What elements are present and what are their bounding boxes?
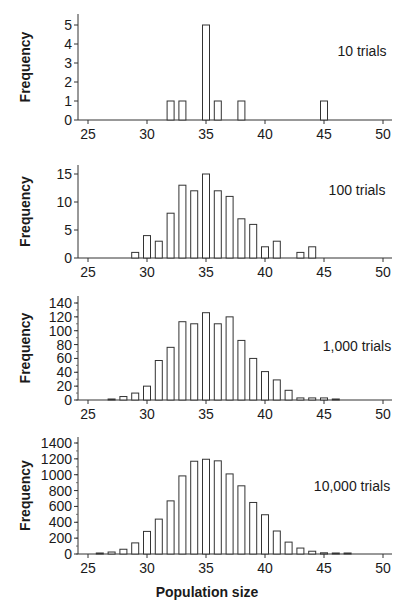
- chart-svg: Frequency01234525303540455010 trials: [0, 0, 414, 145]
- histogram-bar: [273, 531, 280, 554]
- histogram-10000-trials: Frequency0200400600800100012001400253035…: [0, 435, 414, 580]
- histogram-bar: [250, 224, 257, 258]
- histogram-bar: [144, 386, 151, 400]
- histogram-bar: [238, 340, 245, 400]
- x-tick-label: 40: [257, 264, 273, 280]
- histogram-bar: [167, 501, 174, 554]
- histogram-bar: [155, 241, 162, 258]
- y-tick-label: 100: [49, 323, 73, 339]
- y-tick-label: 0: [64, 392, 72, 408]
- histogram-bar: [297, 398, 304, 400]
- histogram-bar: [191, 324, 198, 400]
- x-tick-label: 45: [316, 560, 332, 576]
- x-tick-label: 30: [139, 264, 155, 280]
- histogram-bar: [132, 252, 139, 258]
- y-tick-label: 1200: [41, 451, 72, 467]
- histogram-bar: [179, 322, 186, 400]
- histogram-bar: [321, 553, 328, 554]
- y-axis-label: Frequency: [17, 460, 33, 531]
- histogram-bar: [191, 191, 198, 258]
- y-tick-label: 40: [56, 364, 72, 380]
- histogram-bar: [120, 397, 127, 400]
- histogram-bar: [273, 241, 280, 258]
- histogram-100-trials: Frequency051015253035404550100 trials: [0, 145, 414, 290]
- y-tick-label: 600: [49, 498, 73, 514]
- histogram-bar: [238, 101, 245, 120]
- histogram-bar: [250, 502, 257, 554]
- x-tick-label: 50: [375, 406, 391, 422]
- y-axis-label: Frequency: [17, 312, 33, 383]
- x-tick-label: 45: [316, 406, 332, 422]
- histogram-bar: [214, 324, 221, 400]
- histogram-bar: [226, 317, 233, 400]
- y-axis-label: Frequency: [17, 176, 33, 247]
- histogram-bar: [203, 459, 210, 554]
- histogram-bar: [262, 372, 269, 400]
- histogram-bar: [179, 476, 186, 554]
- y-axis-label: Frequency: [17, 31, 33, 102]
- y-tick-label: 0: [64, 546, 72, 562]
- x-tick-label: 50: [375, 560, 391, 576]
- y-tick-label: 1400: [41, 435, 72, 451]
- histogram-bar: [167, 213, 174, 258]
- x-tick-label: 25: [80, 126, 96, 142]
- x-tick-label: 35: [198, 126, 214, 142]
- x-tick-label: 25: [80, 560, 96, 576]
- x-tick-label: 25: [80, 264, 96, 280]
- histogram-bar: [309, 247, 316, 258]
- trials-annotation: 10,000 trials: [314, 478, 390, 494]
- histogram-bar: [344, 553, 351, 554]
- y-tick-label: 1: [64, 93, 72, 109]
- histogram-bar: [179, 185, 186, 258]
- histogram-bar: [120, 549, 127, 554]
- y-tick-label: 140: [49, 295, 73, 311]
- y-tick-label: 1000: [41, 467, 72, 483]
- chart-svg: Frequency051015253035404550100 trials: [0, 145, 414, 290]
- histogram-bar: [96, 553, 103, 554]
- y-tick-label: 5: [64, 222, 72, 238]
- histogram-bar: [108, 552, 115, 554]
- histogram-bar: [191, 461, 198, 554]
- histogram-bar: [250, 358, 257, 400]
- histogram-bar: [132, 393, 139, 400]
- x-tick-label: 40: [257, 126, 273, 142]
- y-tick-label: 20: [56, 378, 72, 394]
- x-tick-label: 45: [316, 264, 332, 280]
- histogram-bar: [321, 101, 328, 120]
- y-tick-label: 0: [64, 112, 72, 128]
- histogram-bar: [262, 247, 269, 258]
- chart-svg: Frequency0204060801001201402530354045501…: [0, 290, 414, 435]
- histogram-bar: [179, 101, 186, 120]
- histogram-bar: [203, 25, 210, 120]
- histogram-bar: [155, 519, 162, 554]
- histogram-bar: [226, 196, 233, 258]
- histogram-bar: [332, 399, 339, 400]
- histogram-bar: [155, 361, 162, 400]
- histogram-10-trials: Frequency01234525303540455010 trials: [0, 0, 414, 145]
- histogram-bar: [321, 398, 328, 400]
- histogram-bar: [144, 531, 151, 554]
- x-tick-label: 40: [257, 560, 273, 576]
- x-tick-label: 25: [80, 406, 96, 422]
- histogram-bar: [273, 380, 280, 400]
- histogram-bar: [297, 252, 304, 258]
- histogram-bar: [226, 474, 233, 554]
- x-tick-label: 40: [257, 406, 273, 422]
- x-tick-label: 35: [198, 560, 214, 576]
- trials-annotation: 100 trials: [329, 182, 386, 198]
- histogram-bar: [144, 236, 151, 258]
- histogram-bar: [214, 101, 221, 120]
- x-tick-label: 50: [375, 126, 391, 142]
- x-tick-label: 30: [139, 406, 155, 422]
- histogram-bar: [132, 543, 139, 554]
- histogram-bar: [262, 515, 269, 554]
- x-tick-label: 45: [316, 126, 332, 142]
- x-tick-label: 30: [139, 126, 155, 142]
- y-tick-label: 0: [64, 250, 72, 266]
- y-tick-label: 3: [64, 55, 72, 71]
- histogram-bar: [108, 399, 115, 400]
- histogram-bar: [214, 191, 221, 258]
- histogram-bar: [309, 551, 316, 554]
- y-tick-label: 200: [49, 530, 73, 546]
- trials-annotation: 1,000 trials: [323, 338, 391, 354]
